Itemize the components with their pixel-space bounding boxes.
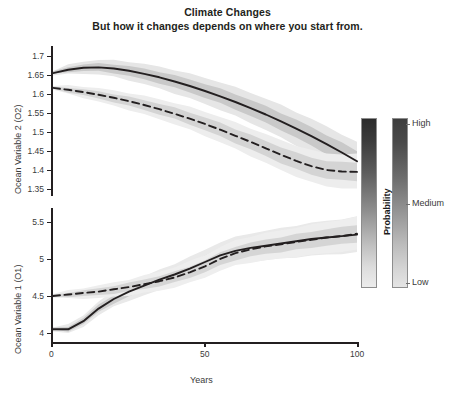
panel-o2-ytick-label: 1.5 [14, 127, 44, 137]
panel-o2-ytick-label: 1.65 [14, 70, 44, 80]
panel-o1-ytick-label: 5.5 [14, 217, 44, 227]
panel-o1-ytick [47, 222, 51, 223]
legend-tick-label-medium: Medium [412, 198, 444, 208]
panel-o2-ytick [47, 113, 51, 114]
panel-o2-ytick [47, 170, 51, 171]
panel-o2-series-canvas [53, 44, 359, 199]
chart-title-block: Climate Changes But how it changes depen… [0, 6, 455, 33]
uncertainty-band-low-probability [53, 217, 357, 300]
panel-o2-ytick [47, 75, 51, 76]
xtick [51, 342, 53, 347]
xtick-label: 0 [49, 349, 54, 359]
panel-o2-ytick-label: 1.7 [14, 51, 44, 61]
legend-tick-label-low: Low [412, 277, 429, 287]
panel-o1-y-axis-label: Ocean Variable 1 (O1) [13, 265, 23, 354]
legend-tick [406, 124, 410, 125]
panel-o2-plot-area [53, 44, 359, 199]
panel-o1-ytick-label: 5 [14, 254, 44, 264]
probability-colorbar-o2 [361, 118, 377, 288]
panel-o1-ytick [47, 296, 51, 297]
panel-o2-ytick [47, 189, 51, 190]
probability-legend: Probability High Medium Low [360, 118, 455, 290]
chart-figure: Climate Changes But how it changes depen… [0, 0, 455, 407]
panel-o1-ytick [47, 259, 51, 260]
probability-legend-label: Probability [382, 188, 392, 235]
x-axis-label: Years [190, 375, 213, 385]
panel-o1-ytick [47, 333, 51, 334]
legend-tick [406, 204, 410, 205]
legend-tick [406, 283, 410, 284]
panel-o2-ytick [47, 94, 51, 95]
panel-o2-ytick-label: 1.45 [14, 146, 44, 156]
legend-tick-label-high: High [412, 118, 431, 128]
panel-ocean-variable-1: Ocean Variable 1 (O1) 5.5 5 4.5 4 0 50 1… [0, 206, 365, 358]
xtick [357, 342, 359, 347]
xtick [204, 342, 206, 347]
panel-o2-ytick-label: 1.35 [14, 184, 44, 194]
panel-ocean-variable-2: Ocean Variable 2 (O2) 1.7 1.65 1.6 1.55 … [0, 44, 365, 199]
panel-o1-plot-area [53, 206, 359, 346]
panel-o2-ytick-label: 1.6 [14, 89, 44, 99]
chart-subtitle: But how it changes depends on where you … [0, 19, 455, 33]
panel-o2-ytick-label: 1.4 [14, 165, 44, 175]
chart-title: Climate Changes [0, 6, 455, 19]
panel-o2-ytick [47, 151, 51, 152]
panel-o2-ytick-label: 1.55 [14, 108, 44, 118]
panel-o2-ytick [47, 56, 51, 57]
panel-o2-ytick [47, 132, 51, 133]
panel-o1-series-canvas [53, 206, 359, 346]
xtick-label: 50 [200, 349, 209, 359]
panel-o1-ytick-label: 4 [14, 328, 44, 338]
probability-colorbar-o1 [392, 118, 408, 288]
panel-o1-ytick-label: 4.5 [14, 291, 44, 301]
xtick-label: 100 [350, 349, 364, 359]
